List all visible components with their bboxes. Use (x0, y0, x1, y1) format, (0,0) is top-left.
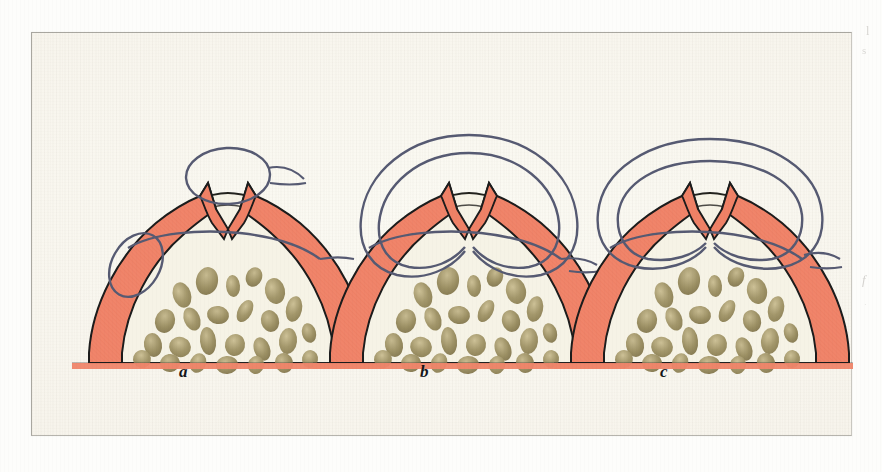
suture-tail-c-2 (810, 267, 842, 269)
anatomical-illustration (32, 33, 853, 437)
suture-tail-a-2 (270, 183, 306, 185)
panel-c-illustration (554, 139, 853, 376)
panel-label-c: c (660, 362, 668, 382)
margin-text-fragment-top: l (866, 24, 882, 39)
cut-gingiva-band-c (554, 363, 853, 369)
margin-text-fragment-lower: f (862, 272, 882, 288)
scanned-page: a b c l s f · (0, 0, 882, 472)
panel-label-a: a (179, 362, 188, 382)
panel-label-b: b (420, 362, 429, 382)
suture-tail-a-3 (320, 258, 354, 260)
figure-frame (31, 32, 852, 436)
suture-tail-a-1 (268, 167, 304, 179)
margin-text-fragment-mid: s (862, 44, 882, 57)
margin-text-fragment-body: · (864, 300, 882, 309)
